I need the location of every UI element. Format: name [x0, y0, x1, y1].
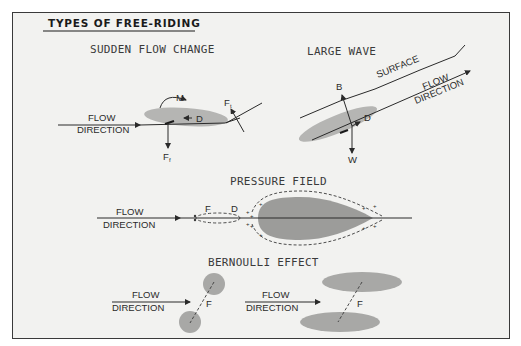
svg-text:TYPES OF FREE-RIDING: TYPES OF FREE-RIDING — [48, 17, 201, 29]
panel-pressure-field: PRESSURE FIELD FLOW DIRECTION F D + + + … — [97, 175, 412, 245]
svg-text:FLOW: FLOW — [262, 289, 289, 300]
sphere-bottom — [179, 311, 201, 333]
svg-text:F: F — [205, 203, 211, 214]
svg-text:D: D — [196, 113, 203, 124]
svg-text:+: + — [250, 223, 254, 229]
svg-text:DIRECTION: DIRECTION — [103, 219, 155, 230]
svg-text:+: + — [373, 223, 377, 229]
svg-text:DIRECTION: DIRECTION — [246, 302, 298, 313]
svg-text:W: W — [348, 154, 357, 165]
free-riding-diagram: TYPES OF FREE-RIDING SUDDEN FLOW CHANGE … — [0, 0, 521, 346]
svg-text:+: + — [373, 203, 377, 209]
svg-text:SURFACE: SURFACE — [375, 53, 421, 80]
body-shape — [143, 105, 228, 129]
svg-text:+: + — [259, 232, 263, 238]
svg-text:D: D — [231, 203, 238, 214]
panel-bernoulli-effect: BERNOULLI EFFECT FLOW DIRECTION F FLOW D… — [112, 256, 402, 333]
svg-text:FLOW: FLOW — [132, 289, 159, 300]
svg-text:D: D — [364, 112, 371, 123]
heading-bernoulli-effect: BERNOULLI EFFECT — [208, 256, 319, 269]
heading-large-wave: LARGE WAVE — [307, 45, 376, 58]
svg-text:B: B — [336, 81, 342, 92]
svg-text:+: + — [362, 225, 366, 231]
svg-text:t: t — [230, 103, 232, 109]
svg-text:DIRECTION: DIRECTION — [112, 302, 164, 313]
svg-text:FLOW: FLOW — [88, 112, 115, 123]
svg-text:+: + — [259, 201, 263, 207]
svg-text:F: F — [206, 298, 212, 309]
svg-text:+: + — [250, 213, 254, 219]
panel-large-wave: LARGE WAVE SURFACE FLOW DIRECTION B D W — [296, 45, 470, 165]
svg-text:f: f — [169, 157, 171, 163]
svg-text:+: + — [362, 205, 366, 211]
heading-sudden-flow-change: SUDDEN FLOW CHANGE — [90, 43, 215, 56]
svg-text:F: F — [357, 298, 363, 309]
heading-pressure-field: PRESSURE FIELD — [230, 175, 327, 188]
svg-text:DIRECTION: DIRECTION — [77, 124, 129, 135]
svg-text:M: M — [176, 92, 184, 103]
diagram-title: TYPES OF FREE-RIDING — [43, 17, 201, 31]
panel-sudden-flow-change: SUDDEN FLOW CHANGE FLOW DIRECTION M D F … — [58, 43, 262, 163]
sphere-top — [203, 273, 225, 295]
svg-text:FLOW: FLOW — [116, 206, 143, 217]
body-shape — [296, 100, 381, 148]
ellipse-bottom — [300, 312, 380, 332]
